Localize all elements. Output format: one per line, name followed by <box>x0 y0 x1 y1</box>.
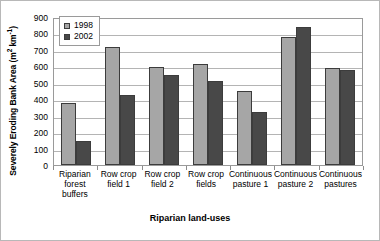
x-axis-tick-label: Row cropfields <box>184 170 228 199</box>
y-axis-title-end: ) <box>8 26 18 29</box>
y-axis-title-exponent-1: 2 <box>6 49 13 53</box>
x-axis-tick-label-line: field 2 <box>141 180 183 190</box>
x-axis-tick-label: Continuouspastures <box>318 170 363 199</box>
x-axis-tick-label: Row cropfield 2 <box>140 170 184 199</box>
bar-2002-1[interactable] <box>76 141 91 165</box>
bar-2002-2[interactable] <box>120 95 135 165</box>
x-axis-tick-label: Riparianforestbuffers <box>53 170 97 199</box>
bar-2002-3[interactable] <box>164 75 179 165</box>
bar-group <box>186 19 230 165</box>
y-axis-tick-labels: 9008007006005004003002001000 <box>23 18 51 166</box>
legend-swatch-2002-icon <box>64 34 70 40</box>
bar-2002-4[interactable] <box>208 81 223 165</box>
y-axis-title: Severely Eroding Bank Area (m2 km-1) <box>6 26 18 176</box>
y-axis-tick-label: 600 <box>22 63 48 72</box>
x-axis-tick-label-line: pasture 2 <box>274 180 317 190</box>
y-axis-tick-label: 900 <box>22 14 48 23</box>
y-axis-title-mid: km <box>8 35 18 49</box>
bar-1998-5[interactable] <box>237 91 252 165</box>
bar-group <box>142 19 186 165</box>
chart-legend: 19982002 <box>59 16 100 46</box>
y-axis-tick-label: 700 <box>22 47 48 56</box>
y-axis-title-base: Severely Eroding Bank Area (m <box>8 52 18 175</box>
x-axis-tick-label-line: fields <box>185 180 227 190</box>
x-axis-tick-label-line: pastures <box>319 180 362 190</box>
x-axis-tick-label-line: pasture 1 <box>229 180 272 190</box>
bar-2002-5[interactable] <box>252 112 267 165</box>
y-axis-title-exponent-2: -1 <box>6 29 13 35</box>
y-axis-tick-label: 0 <box>22 162 48 171</box>
bar-group <box>230 19 274 165</box>
bar-1998-2[interactable] <box>105 47 120 165</box>
y-axis-tick-label: 500 <box>22 80 48 89</box>
bar-group <box>274 19 318 165</box>
legend-swatch-1998-icon <box>64 23 70 29</box>
bar-1998-3[interactable] <box>149 67 164 165</box>
legend-label: 2002 <box>74 32 93 41</box>
x-axis-tick-mark <box>363 166 364 170</box>
bar-1998-6[interactable] <box>281 37 296 165</box>
x-axis-title: Riparian land-uses <box>1 213 379 223</box>
y-axis-title-container: Severely Eroding Bank Area (m2 km-1) <box>1 1 23 201</box>
x-axis-tick-labels: RiparianforestbuffersRow cropfield 1Row … <box>53 170 363 199</box>
y-axis-tick-label: 200 <box>22 129 48 138</box>
bar-1998-7[interactable] <box>325 68 340 165</box>
legend-label: 1998 <box>74 21 93 30</box>
bar-group <box>98 19 142 165</box>
bar-1998-1[interactable] <box>61 103 76 165</box>
x-axis-tick-label: Continuouspasture 2 <box>273 170 318 199</box>
bar-1998-4[interactable] <box>193 64 208 165</box>
y-axis-tick-label: 800 <box>22 30 48 39</box>
x-axis-tick-label-line: buffers <box>54 190 96 200</box>
legend-item-2002[interactable]: 2002 <box>64 31 93 42</box>
x-axis-tick-label: Row cropfield 1 <box>97 170 141 199</box>
chart-figure: Severely Eroding Bank Area (m2 km-1) 900… <box>0 0 380 241</box>
bar-group <box>318 19 362 165</box>
x-axis-tick-label: Continuouspasture 1 <box>228 170 273 199</box>
y-axis-tick-label: 100 <box>22 145 48 154</box>
bar-2002-6[interactable] <box>296 27 311 165</box>
bar-2002-7[interactable] <box>340 70 355 165</box>
legend-item-1998[interactable]: 1998 <box>64 20 93 31</box>
y-axis-tick-label: 400 <box>22 96 48 105</box>
y-axis-tick-label: 300 <box>22 112 48 121</box>
bar-groups <box>54 19 362 165</box>
x-axis-tick-label-line: field 1 <box>98 180 140 190</box>
